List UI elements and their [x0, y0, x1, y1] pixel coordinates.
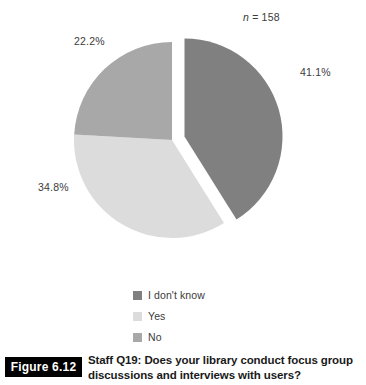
figure-number-tag: Figure 6.12 — [5, 357, 82, 377]
pie-slice-no[interactable] — [74, 42, 172, 140]
legend-item-i-dont-know[interactable]: I don't know — [133, 286, 293, 305]
slice-label-yes: 34.8% — [38, 181, 69, 193]
legend-label-i-dont-know: I don't know — [148, 290, 205, 301]
pie-chart: n = 158 41.1% 22.2% 34.8% — [0, 0, 366, 268]
legend-item-no[interactable]: No — [133, 328, 293, 347]
legend-label-yes: Yes — [148, 311, 165, 322]
caption-line-1: Staff Q19: Does your library conduct foc… — [88, 353, 360, 368]
caption-line-2: discussions and interviews with users? — [88, 368, 360, 383]
slice-label-i-dont-know: 41.1% — [300, 66, 331, 78]
legend-item-yes[interactable]: Yes — [133, 307, 293, 326]
sample-size-value: = 158 — [252, 11, 280, 23]
figure-caption-block: Figure 6.12 Staff Q19: Does your library… — [0, 353, 366, 385]
sample-size-label: n = 158 — [243, 11, 280, 23]
figure-caption-text: Staff Q19: Does your library conduct foc… — [88, 353, 360, 383]
legend-swatch-i-dont-know — [133, 291, 142, 300]
legend-swatch-no — [133, 333, 142, 342]
legend-swatch-yes — [133, 312, 142, 321]
sample-size-variable: n — [243, 11, 249, 23]
legend-label-no: No — [148, 332, 162, 343]
figure-6-12: n = 158 41.1% 22.2% 34.8% I don't know Y… — [0, 0, 366, 385]
chart-legend: I don't know Yes No — [133, 286, 293, 349]
slice-label-no: 22.2% — [74, 35, 105, 47]
pie-chart-svg — [0, 0, 366, 268]
